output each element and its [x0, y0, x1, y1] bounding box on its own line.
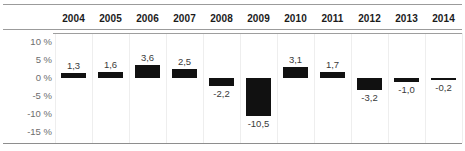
- year-header-2013: 2013: [388, 11, 426, 27]
- year-header-2014: 2014: [425, 11, 463, 27]
- bar-2009: [246, 78, 271, 116]
- y-axis-labels: 10 %5 %0 %-5 %-10 %-15 %: [0, 36, 52, 140]
- bar-2005: [98, 72, 123, 78]
- y-tick-label-neg10: -10 %: [0, 109, 52, 119]
- bar-2010: [283, 67, 308, 78]
- year-header-2012: 2012: [351, 11, 389, 27]
- year-header-2004: 2004: [55, 11, 93, 27]
- year-header-2010: 2010: [277, 11, 315, 27]
- plot-area: 1,31,63,62,5-2,2-10,53,11,7-3,2-1,0-0,2: [55, 33, 462, 143]
- gridline: [166, 33, 167, 143]
- bar-2007: [172, 69, 197, 78]
- year-header-2005: 2005: [92, 11, 130, 27]
- bar-2008: [209, 78, 234, 86]
- bar-2004: [61, 73, 86, 78]
- gridline: [92, 33, 93, 143]
- y-tick-label-neg15: -15 %: [0, 127, 52, 137]
- y-tick-label-neg5: -5 %: [0, 91, 52, 101]
- bar-2013: [394, 78, 419, 82]
- chart-top-rule: [3, 4, 462, 5]
- bar-2014: [431, 78, 456, 80]
- gridline: [55, 33, 56, 143]
- bar-label-2011: 1,7: [311, 59, 355, 70]
- bar-label-2008: -2,2: [200, 88, 244, 99]
- year-header-2011: 2011: [314, 11, 352, 27]
- y-tick-label-10: 10 %: [0, 37, 52, 47]
- chart-bottom-rule: [3, 143, 462, 144]
- zero-baseline: [53, 33, 462, 34]
- header-bottom-rule: [3, 29, 462, 30]
- bar-label-2007: 2,5: [163, 56, 207, 67]
- bar-chart: 2004200520062007200820092010201120122013…: [0, 0, 465, 151]
- year-header-2009: 2009: [240, 11, 278, 27]
- gridline: [314, 33, 315, 143]
- year-header-2008: 2008: [203, 11, 241, 27]
- bar-2011: [320, 72, 345, 78]
- y-tick-label-5: 5 %: [0, 55, 52, 65]
- gridline: [129, 33, 130, 143]
- gridline: [351, 33, 352, 143]
- bar-label-2014: -0,2: [422, 82, 465, 93]
- year-header-2007: 2007: [166, 11, 204, 27]
- bar-label-2009: -10,5: [237, 118, 281, 129]
- year-header-row: 2004200520062007200820092010201120122013…: [0, 11, 465, 27]
- year-header-2006: 2006: [129, 11, 167, 27]
- y-tick-label-0: 0 %: [0, 73, 52, 83]
- bar-2012: [357, 78, 382, 90]
- bar-2006: [135, 65, 160, 78]
